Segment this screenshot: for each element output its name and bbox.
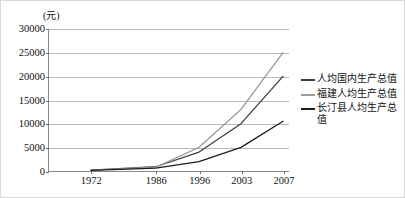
legend-line-swatch — [301, 108, 315, 110]
x-axis-tick-label: 1996 — [189, 176, 210, 187]
x-axis-tick-mark — [156, 171, 157, 174]
x-axis-tick-mark — [242, 171, 243, 174]
y-axis-tick-label: 10000 — [19, 119, 45, 130]
x-axis-tick-label: 1986 — [146, 176, 167, 187]
y-axis-tick-mark — [46, 172, 49, 173]
legend-item-label: 福建人均生产总值 — [317, 88, 397, 100]
series-lines-group — [49, 29, 289, 171]
legend-item: 长汀县人均生产总值 — [301, 102, 403, 125]
x-axis-tick-mark — [200, 171, 201, 174]
y-axis-tick-label: 25000 — [19, 48, 45, 59]
legend-line-swatch — [301, 94, 315, 96]
series-line — [91, 53, 283, 170]
legend-item-label: 长汀县人均生产总值 — [317, 102, 403, 125]
x-axis-tick-label: 2003 — [231, 176, 252, 187]
x-axis-tick-label: 1972 — [81, 176, 102, 187]
series-line — [91, 76, 283, 170]
plot-area: 300002500020000150001000050000 197219861… — [48, 29, 289, 172]
x-axis-tick-label: 2007 — [273, 176, 294, 187]
y-axis-unit-label: (元) — [43, 7, 60, 22]
series-line — [91, 121, 283, 170]
legend-item-label: 人均国内生产总值 — [317, 73, 397, 85]
chart-legend: 人均国内生产总值福建人均生产总值长汀县人均生产总值 — [301, 73, 403, 128]
y-axis-tick-label: 20000 — [19, 71, 45, 82]
legend-line-swatch — [301, 79, 315, 81]
legend-item: 福建人均生产总值 — [301, 88, 403, 100]
y-axis-tick-label: 0 — [40, 167, 45, 178]
x-axis-tick-mark — [284, 171, 285, 174]
y-axis-tick-label: 30000 — [19, 24, 45, 35]
y-axis-tick-label: 15000 — [19, 95, 45, 106]
legend-item: 人均国内生产总值 — [301, 73, 403, 85]
chart-figure: (元) 300002500020000150001000050000 19721… — [0, 0, 405, 198]
x-axis-tick-mark — [91, 171, 92, 174]
y-axis-tick-label: 5000 — [24, 143, 45, 154]
